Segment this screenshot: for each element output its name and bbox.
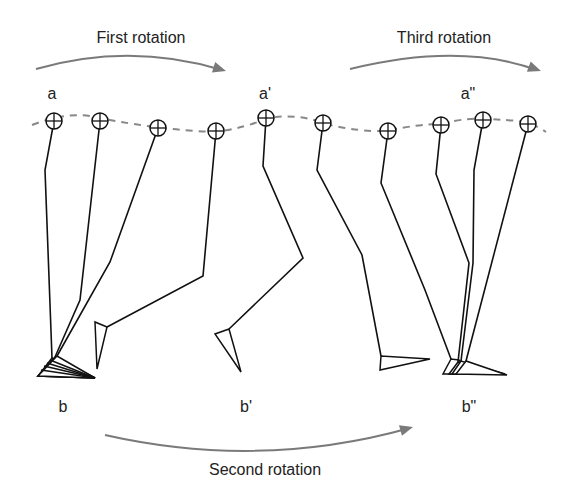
foot-shape (95, 322, 107, 369)
third-rotation-arc (350, 56, 537, 70)
leg-position (380, 123, 470, 374)
arrowhead-icon (399, 425, 413, 436)
leg-segment (461, 120, 483, 361)
leg-position (456, 116, 536, 375)
second-rotation-label: Second rotation (209, 461, 321, 478)
foot-shape (380, 356, 430, 370)
first-rotation-label: First rotation (97, 29, 186, 46)
point-label-a: a (48, 85, 57, 102)
leg-position (433, 117, 500, 374)
leg-segment (436, 125, 469, 362)
leg-segment (57, 128, 158, 356)
leg-position (215, 110, 303, 372)
leg-positions (38, 110, 536, 378)
point-label-b: b (59, 398, 68, 415)
point-label-b-prime: b' (240, 398, 252, 415)
point-label-a-prime: a' (259, 85, 271, 102)
gait-rotation-diagram: First rotation Second rotation Third rot… (0, 0, 577, 494)
leg-segment (229, 118, 303, 329)
leg-segment (381, 131, 451, 359)
arrowhead-icon (212, 62, 226, 73)
foot-shape (456, 361, 507, 375)
leg-position (95, 123, 224, 369)
third-rotation-label: Third rotation (397, 29, 491, 46)
point-label-a-double-prime: a" (461, 85, 476, 102)
leg-segment (107, 131, 216, 327)
arrowhead-icon (527, 61, 541, 71)
point-label-b-double-prime: b" (462, 398, 477, 415)
first-rotation-arc (36, 56, 222, 70)
second-rotation-arc (105, 428, 410, 451)
hip-trajectory-dashed-line (32, 115, 546, 132)
foot-shape (215, 329, 241, 372)
leg-segment (55, 121, 100, 357)
leg-position (315, 115, 430, 370)
point-labels: aa'a"bb'b" (48, 85, 477, 415)
leg-segment (317, 123, 381, 356)
leg-segment (45, 121, 54, 358)
